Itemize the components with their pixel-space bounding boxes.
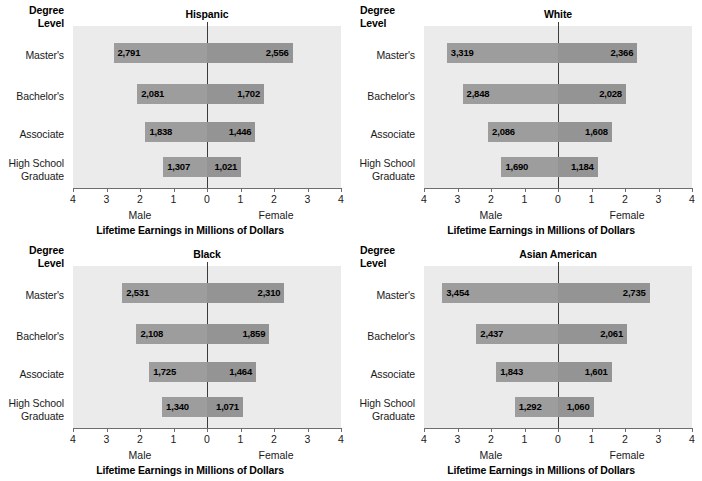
- x-axis-tick: [592, 188, 593, 192]
- x-axis-tick-label: 1: [162, 433, 186, 445]
- bar-value-label-male: 1,690: [505, 157, 528, 177]
- bar-male: 2,437: [476, 324, 558, 344]
- x-axis-tick: [174, 428, 175, 432]
- panel-title: Hispanic: [73, 8, 341, 20]
- x-axis-tick-label: 2: [479, 193, 503, 205]
- x-axis-tick-label: 4: [61, 433, 85, 445]
- axis-side-label-female: Female: [241, 449, 311, 461]
- bar-value-label-male: 2,531: [126, 283, 149, 303]
- category-label-line1: Bachelor's: [16, 330, 64, 342]
- bar-row: 1,3401,071: [73, 397, 341, 417]
- axis-side-label-male: Male: [456, 209, 526, 221]
- category-label-line2: Graduate: [351, 410, 415, 423]
- bar-value-label-male: 3,454: [446, 283, 469, 303]
- degree-level-header-line1: Degree: [29, 4, 64, 16]
- x-axis-tick: [692, 428, 693, 432]
- x-axis-tick: [458, 188, 459, 192]
- bar-male: 2,791: [114, 43, 207, 63]
- x-axis-tick-label: 2: [128, 193, 152, 205]
- category-label-line2: Graduate: [0, 170, 64, 183]
- x-axis-tick-label: 1: [513, 433, 537, 445]
- x-axis-tick: [241, 428, 242, 432]
- plot-area: 2,7912,5562,0811,7021,8381,4461,3071,021: [73, 26, 341, 188]
- category-label-line1: Master's: [376, 289, 415, 301]
- x-axis-title: Lifetime Earnings in Millions of Dollars: [391, 464, 691, 476]
- bar-value-label-female: 1,601: [585, 362, 608, 382]
- x-axis-tick: [659, 188, 660, 192]
- bar-value-label-male: 1,843: [500, 362, 523, 382]
- category-label-line1: Associate: [19, 368, 64, 380]
- bar-value-label-male: 1,340: [166, 397, 189, 417]
- category-label-line1: Associate: [370, 128, 415, 140]
- bar-female: 1,859: [207, 324, 269, 344]
- bar-female: 2,735: [558, 283, 650, 303]
- x-axis-tick-label: 0: [546, 433, 570, 445]
- category-label-line1: Bachelor's: [367, 90, 415, 102]
- x-axis-tick-label: 2: [613, 433, 637, 445]
- bar-female: 2,556: [207, 43, 293, 63]
- bar-value-label-female: 2,310: [258, 283, 281, 303]
- x-axis-tick: [659, 428, 660, 432]
- degree-level-header: DegreeLevel: [0, 244, 64, 269]
- x-axis-tick: [107, 188, 108, 192]
- bar-row: 1,2921,060: [424, 397, 692, 417]
- bar-row: 2,7912,556: [73, 43, 341, 63]
- x-axis-tick: [491, 188, 492, 192]
- x-axis-tick: [274, 188, 275, 192]
- x-axis-tick: [625, 428, 626, 432]
- x-axis-tick: [73, 188, 74, 192]
- degree-level-header-line1: Degree: [29, 244, 64, 256]
- bar-female: 1,608: [558, 122, 612, 142]
- bar-male: 2,081: [137, 84, 207, 104]
- bar-male: 1,838: [145, 122, 207, 142]
- x-axis-tick-label: 3: [95, 193, 119, 205]
- bar-row: 2,0861,608: [424, 122, 692, 142]
- bar-row: 2,4372,061: [424, 324, 692, 344]
- x-axis-tick: [174, 188, 175, 192]
- bar-female: 1,021: [207, 157, 241, 177]
- bar-value-label-female: 1,184: [571, 157, 594, 177]
- bar-row: 3,3192,366: [424, 43, 692, 63]
- axis-side-label-male: Male: [105, 449, 175, 461]
- x-axis-tick: [458, 428, 459, 432]
- bar-male: 2,531: [122, 283, 207, 303]
- x-axis-tick-label: 4: [412, 433, 436, 445]
- x-axis-tick-label: 3: [647, 433, 671, 445]
- x-axis-tick: [207, 428, 208, 432]
- bar-row: 1,8381,446: [73, 122, 341, 142]
- bar-value-label-male: 2,086: [492, 122, 515, 142]
- category-label: High SchoolGraduate: [0, 397, 64, 422]
- x-axis-tick-label: 3: [296, 193, 320, 205]
- bar-row: 2,8482,028: [424, 84, 692, 104]
- bar-value-label-male: 1,292: [519, 397, 542, 417]
- bar-value-label-male: 2,791: [118, 43, 141, 63]
- category-label: Associate: [0, 368, 64, 381]
- x-axis-tick-label: 2: [128, 433, 152, 445]
- category-label-line1: High School: [8, 157, 64, 169]
- x-axis-tick: [107, 428, 108, 432]
- x-axis-tick: [308, 188, 309, 192]
- bar-value-label-female: 1,702: [237, 84, 260, 104]
- bar-row: 2,5312,310: [73, 283, 341, 303]
- bar-male: 2,086: [488, 122, 558, 142]
- x-axis-tick-label: 3: [296, 433, 320, 445]
- bar-female: 2,028: [558, 84, 626, 104]
- bar-female: 1,464: [207, 362, 256, 382]
- category-label-line1: Associate: [370, 368, 415, 380]
- category-label: Bachelor's: [351, 330, 415, 343]
- bar-value-label-female: 2,366: [610, 43, 633, 63]
- bar-female: 1,071: [207, 397, 243, 417]
- x-axis-tick: [207, 188, 208, 192]
- bar-female: 2,061: [558, 324, 627, 344]
- bar-value-label-female: 1,446: [229, 122, 252, 142]
- x-axis-tick-label: 2: [262, 433, 286, 445]
- category-label-line2: Graduate: [351, 170, 415, 183]
- panel-title: White: [424, 8, 692, 20]
- plot-area: 3,3192,3662,8482,0282,0861,6081,6901,184: [424, 26, 692, 188]
- bar-value-label-female: 1,071: [216, 397, 239, 417]
- bar-male: 2,108: [136, 324, 207, 344]
- x-axis-tick: [341, 188, 342, 192]
- x-axis-tick: [558, 188, 559, 192]
- category-label-line1: High School: [359, 397, 415, 409]
- x-axis-tick-label: 0: [546, 193, 570, 205]
